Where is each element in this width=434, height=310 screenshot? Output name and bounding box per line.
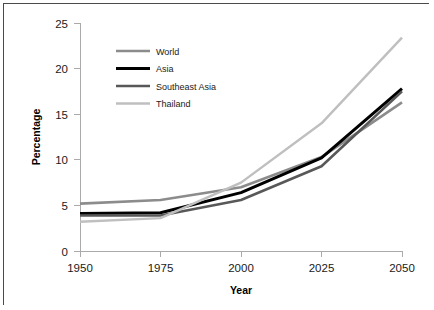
chart-area: 0 5 10 15 20 25 1950 1975 2000 2025 2050…	[4, 4, 430, 306]
x-tick-label: 2000	[228, 262, 254, 274]
x-tick-label: 1950	[67, 262, 93, 274]
x-tick-label: 1975	[148, 262, 174, 274]
y-axis-title: Percentage	[30, 109, 42, 166]
y-tick-label: 15	[55, 109, 68, 121]
y-tick-label: 20	[55, 63, 68, 75]
x-tick-label: 2050	[389, 262, 415, 274]
y-tick-label: 10	[55, 154, 68, 166]
y-tick-label: 25	[55, 18, 68, 30]
x-axis-title: Year	[230, 284, 252, 296]
legend-item-label: World	[156, 47, 179, 57]
x-tick-label: 2025	[309, 262, 335, 274]
figure-frame: 0 5 10 15 20 25 1950 1975 2000 2025 2050…	[3, 3, 429, 305]
legend-item-label: Thailand	[156, 99, 191, 109]
y-tick-label: 0	[62, 246, 68, 258]
legend-item-label: Southeast Asia	[156, 82, 216, 92]
legend-item-label: Asia	[156, 64, 174, 74]
line-chart-svg: 0 5 10 15 20 25 1950 1975 2000 2025 2050…	[4, 4, 430, 306]
y-tick-label: 5	[62, 200, 68, 212]
